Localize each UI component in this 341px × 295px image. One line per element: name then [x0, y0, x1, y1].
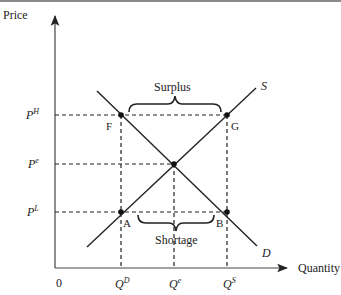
point-b — [224, 209, 230, 215]
surplus-brace — [129, 96, 221, 112]
point-f — [118, 112, 124, 118]
point-g-label: G — [231, 120, 239, 132]
quantity-label-qd: QD — [115, 276, 130, 291]
point-a-label: A — [123, 217, 131, 229]
supply-label: S — [261, 79, 267, 93]
quantity-label-qs: QS — [223, 276, 236, 291]
x-axis-label: Quantity — [298, 261, 340, 275]
svg-text:QD: QD — [115, 276, 130, 291]
surplus-label: Surplus — [154, 80, 191, 94]
quantity-label-qe: Qe — [169, 276, 182, 291]
origin-label: 0 — [56, 276, 62, 290]
svg-text:PL: PL — [26, 204, 39, 219]
point-f-label: F — [106, 120, 112, 132]
y-axis-label: Price — [3, 8, 28, 22]
price-label-pl: PL — [26, 204, 39, 219]
point-b-label: B — [216, 217, 223, 229]
shortage-label: Shortage — [155, 233, 198, 247]
svg-text:QS: QS — [223, 276, 236, 291]
demand-label: D — [261, 246, 271, 260]
point-a — [118, 209, 124, 215]
supply-demand-diagram: Price Quantity 0 S D F G A B Surplus Sho… — [0, 0, 341, 295]
price-label-ph: PH — [25, 107, 40, 122]
shortage-brace — [138, 215, 214, 231]
point-g — [224, 112, 230, 118]
price-label-pe: Pe — [27, 156, 39, 171]
point-equilibrium — [171, 161, 177, 167]
svg-text:PH: PH — [25, 107, 40, 122]
svg-text:Pe: Pe — [27, 156, 39, 171]
svg-text:Qe: Qe — [169, 276, 182, 291]
